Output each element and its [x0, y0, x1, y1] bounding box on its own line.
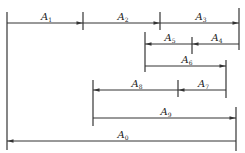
dimension-A0: A0 [7, 129, 236, 143]
dimension-A5: A5 [145, 32, 192, 46]
dimension-A6: A6 [145, 54, 226, 68]
arrowhead-icon [179, 88, 185, 92]
dimension-A8: A8 [93, 78, 178, 92]
arrowhead-icon [220, 64, 226, 68]
dimension-A1: A1 [7, 11, 83, 25]
arrowhead-icon [94, 88, 100, 92]
dimension-A2: A2 [83, 11, 160, 25]
dimension-label: A2 [117, 11, 129, 23]
dimension-label: A8 [131, 78, 143, 90]
arrowhead-icon [230, 116, 236, 120]
dimension-label: A6 [181, 54, 193, 66]
dimension-A3: A3 [160, 11, 239, 25]
dimension-chain-diagram: A1A2A3A5A4A6A8A7A9A0 [0, 0, 245, 153]
arrowhead-icon [146, 42, 152, 46]
dimension-label: A4 [211, 32, 223, 44]
dimension-A7: A7 [178, 78, 226, 92]
diagram-canvas: A1A2A3A5A4A6A8A7A9A0 [0, 0, 245, 153]
dimension-label: A0 [117, 129, 129, 141]
arrowhead-icon [77, 21, 83, 25]
dimension-A4: A4 [192, 32, 239, 46]
arrowhead-icon [154, 21, 160, 25]
dimension-label: A3 [195, 11, 207, 23]
arrowhead-icon [193, 42, 199, 46]
dimension-lines: A1A2A3A5A4A6A8A7A9A0 [7, 11, 239, 143]
dimension-label: A9 [160, 106, 172, 118]
dimension-A9: A9 [93, 106, 236, 120]
dimension-label: A5 [164, 32, 176, 44]
dimension-label: A7 [197, 78, 209, 90]
dimension-label: A1 [40, 11, 52, 23]
arrowhead-icon [8, 139, 14, 143]
arrowhead-icon [233, 21, 239, 25]
